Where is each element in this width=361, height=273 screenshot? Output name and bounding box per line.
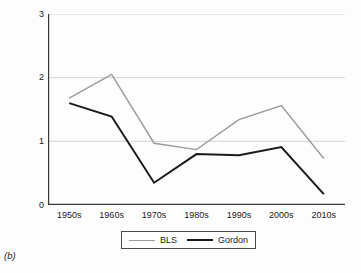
- x-tick-label: 1970s: [131, 209, 177, 221]
- y-tick-label: 1: [28, 137, 44, 146]
- x-tick-label: 1980s: [174, 209, 220, 221]
- legend-entry-bls[interactable]: BLS: [129, 236, 177, 245]
- legend-label: Gordon: [218, 236, 248, 245]
- x-tick-label: 1960s: [89, 209, 135, 221]
- x-tick-label: 2010s: [301, 209, 347, 221]
- chart-legend: BLSGordon: [121, 231, 256, 249]
- legend-line-swatch: [129, 240, 155, 241]
- x-tick-label: 2000s: [258, 209, 304, 221]
- legend-label: BLS: [160, 236, 177, 245]
- series-line-bls: [69, 74, 324, 158]
- line-chart-canvas: [48, 14, 345, 205]
- y-axis-tick-labels: 3 2 1 0: [26, 14, 44, 205]
- panel-caption: (b): [4, 250, 16, 261]
- y-tick-label: 3: [28, 10, 44, 19]
- legend-line-swatch: [187, 239, 213, 241]
- figure-panel: TFP growth, 10-year averages (%) 3 2 1 0…: [0, 0, 361, 273]
- data-series-group: [69, 74, 324, 194]
- legend-entry-gordon[interactable]: Gordon: [187, 236, 248, 245]
- y-tick-label: 2: [28, 73, 44, 82]
- x-tick-label: 1990s: [216, 209, 262, 221]
- y-tick-label: 0: [28, 201, 44, 210]
- x-axis-tick-labels: 1950s1960s1970s1980s1990s2000s2010s: [48, 209, 345, 223]
- x-tick-label: 1950s: [46, 209, 92, 221]
- plot-area: [48, 14, 345, 205]
- series-line-gordon: [69, 103, 324, 194]
